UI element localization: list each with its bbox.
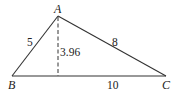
altitude-label: 3.96	[60, 46, 80, 58]
side-label-ac: 8	[112, 36, 118, 48]
side-label-ab: 5	[27, 36, 33, 48]
triangle-diagram: A B C 5 8 10 3.96	[0, 0, 180, 95]
triangle-svg: A B C 5 8 10 3.96	[0, 0, 180, 95]
vertex-label-c: C	[162, 78, 171, 92]
vertex-label-a: A	[53, 2, 62, 16]
side-ab	[12, 16, 58, 76]
vertex-label-b: B	[8, 78, 16, 92]
side-label-bc: 10	[107, 79, 119, 91]
